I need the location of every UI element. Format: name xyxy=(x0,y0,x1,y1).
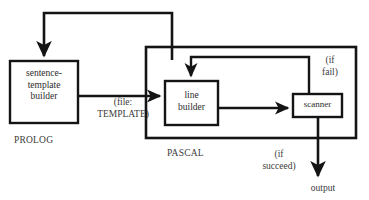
edge-label-if-succeed: (if succeed) xyxy=(248,148,310,172)
diagram-canvas: sentence- template builder line builder … xyxy=(0,0,369,200)
edge-label-output: output xyxy=(300,182,346,194)
group-label-pascal: PASCAL xyxy=(167,148,204,158)
edge-pascal-back-to-template-builder xyxy=(44,13,172,60)
edge-label-file-template: (file: TEMPLATE) xyxy=(88,96,158,120)
node-sentence-template-builder-box xyxy=(10,61,78,123)
node-line-builder-box xyxy=(165,81,218,125)
group-label-prolog: PROLOG xyxy=(14,135,53,145)
node-scanner-box xyxy=(293,94,342,117)
diagram-svg xyxy=(0,0,369,200)
edge-label-if-fail: (if fail) xyxy=(313,54,347,78)
